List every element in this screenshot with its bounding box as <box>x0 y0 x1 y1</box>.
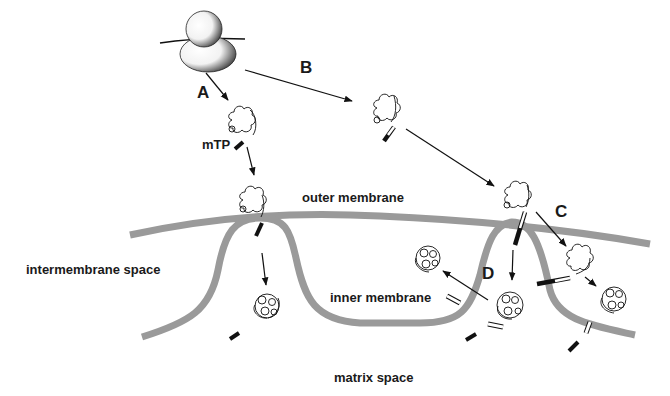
matrix-space-label: matrix space <box>334 370 414 385</box>
ribosome <box>160 11 245 72</box>
unfolded-protein-icon <box>229 106 256 135</box>
arrow-b1 <box>245 70 352 101</box>
intermembrane-space-label: intermembrane space <box>26 262 160 277</box>
pathway-b-label: B <box>300 58 312 78</box>
cleaved-presequence-c <box>569 342 578 351</box>
folded-protein-ims-icon <box>415 246 440 272</box>
outer-membrane-label: outer membrane <box>302 190 404 205</box>
presequence-c <box>537 278 570 284</box>
arrow-a3 <box>262 253 266 285</box>
folded-protein-icon <box>254 294 279 318</box>
pathway-c-label: C <box>555 202 567 222</box>
presequence-in-channel <box>256 223 262 236</box>
arrow-a2 <box>247 147 254 175</box>
pathway-a-label: A <box>197 83 209 103</box>
folded-protein-c-icon <box>601 287 626 313</box>
pathway-d-label: D <box>482 264 494 284</box>
cleaved-presequence <box>230 333 239 339</box>
arrow-d-down <box>512 250 513 280</box>
arrow-c2 <box>585 277 596 286</box>
protein-at-outer-membrane-b-icon <box>504 181 531 208</box>
protein-at-outer-membrane-icon <box>240 186 267 217</box>
outer-membrane-line <box>130 214 650 244</box>
mTP-bar-b <box>384 127 394 141</box>
cleaved-presequence-d <box>466 334 476 340</box>
mtp-label: mTP <box>202 137 230 152</box>
folded-protein-d-icon <box>497 292 523 319</box>
mTP-presequence <box>235 142 243 149</box>
arrow-b2 <box>406 129 494 186</box>
inner-membrane-label: inner membrane <box>330 290 431 305</box>
protein-c-icon <box>567 244 594 274</box>
arrow-a1 <box>206 73 228 100</box>
mitochondrial-import-diagram: outer membrane inner membrane intermembr… <box>0 0 670 396</box>
inner-membrane-channel-d <box>447 296 460 303</box>
unfolded-protein-b-icon <box>374 94 401 123</box>
presequence-d <box>488 324 503 327</box>
